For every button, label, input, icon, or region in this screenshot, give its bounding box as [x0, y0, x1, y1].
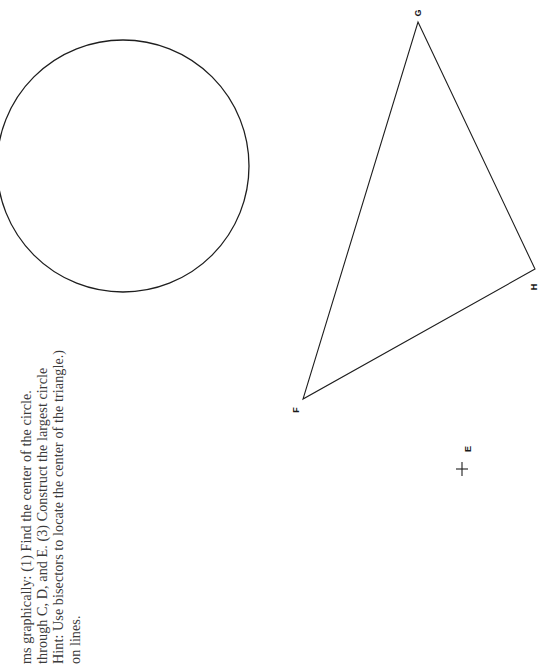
vertex-label-h: H [529, 284, 539, 291]
instructions-text: ms graphically: (1) Find the center of t… [18, 324, 83, 664]
triangle-fgh [303, 22, 535, 399]
vertex-label-f: F [291, 407, 301, 413]
vertex-label-g: G [413, 9, 423, 16]
instruction-line-1: ms graphically: (1) Find the center of t… [18, 324, 34, 664]
instruction-line-4: on lines. [67, 324, 83, 664]
circle-figure [0, 40, 249, 292]
point-e-cross-icon [456, 462, 468, 476]
instruction-line-3: Hint: Use bisectors to locate the center… [50, 324, 66, 664]
point-label-e: E [463, 446, 473, 452]
instruction-line-2: through C, D, and E. (3) Construct the l… [34, 324, 50, 664]
